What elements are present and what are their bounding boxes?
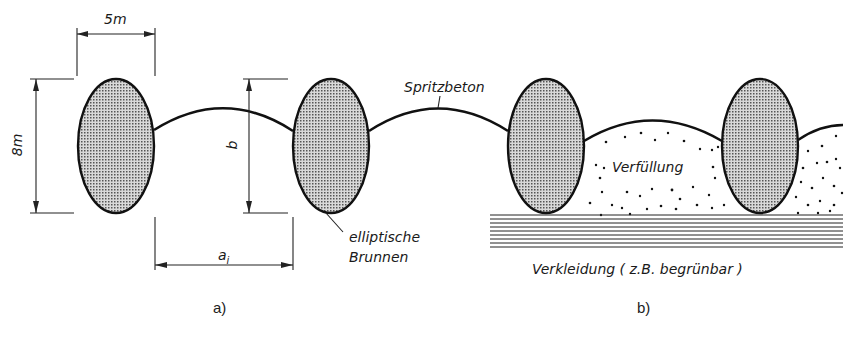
cladding-hatch bbox=[490, 215, 843, 247]
height-dimension-label: 8m bbox=[10, 134, 24, 157]
well-4 bbox=[722, 79, 798, 213]
panel-a-caption: a) bbox=[213, 300, 226, 315]
b-dimension-label: b bbox=[225, 141, 239, 150]
well-3 bbox=[508, 79, 584, 213]
diagram-canvas: 5m 8m b ai Spritzbeton elliptische Brunn… bbox=[0, 0, 862, 337]
well-1 bbox=[78, 79, 154, 213]
diagram-drawing bbox=[0, 0, 862, 337]
wells-label-line1: elliptische bbox=[349, 230, 420, 244]
backfill-label: Verfüllung bbox=[612, 160, 683, 174]
spacing-dimension-label: ai bbox=[218, 248, 229, 266]
wells-label-line2: Brunnen bbox=[349, 250, 408, 264]
width-dimension-label: 5m bbox=[104, 12, 127, 26]
well-2 bbox=[293, 79, 369, 213]
cladding-label: Verkleidung ( z.B. begrünbar ) bbox=[532, 262, 743, 276]
elliptical-wells bbox=[78, 79, 798, 213]
panel-b-caption: b) bbox=[637, 300, 650, 315]
shotcrete-label: Spritzbeton bbox=[404, 80, 485, 94]
spacing-symbol: a bbox=[218, 247, 227, 263]
spacing-subscript: i bbox=[227, 255, 230, 266]
